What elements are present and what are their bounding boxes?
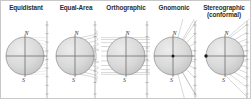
north-pole-label: N	[23, 30, 29, 36]
panel-title-line1: Orthographic	[101, 4, 151, 11]
projection-plane-equidistant	[45, 21, 48, 98]
panel-title-equal-area: Equal-Area	[51, 4, 101, 11]
projection-panel-orthographic: OrthographicNS	[101, 1, 151, 99]
north-pole-label: N	[223, 30, 229, 36]
projection-center-point	[172, 55, 175, 58]
panel-title-line2: (conformal)	[199, 11, 249, 18]
panel-title-orthographic: Orthographic	[101, 4, 151, 11]
projection-panel-equidistant: EquidistantNS	[1, 1, 51, 99]
projection-plane-equal-area	[93, 21, 96, 98]
panel-title-line1: Gnomonic	[149, 4, 199, 11]
north-pole-label: N	[171, 30, 177, 36]
projection-panel-gnomonic: GnomonicNS	[149, 1, 199, 99]
south-pole-label: S	[170, 77, 173, 83]
south-pole-label: S	[222, 77, 225, 83]
projection-diagram-stereographic: NS	[199, 19, 249, 99]
south-pole-label: S	[123, 77, 126, 83]
projection-edge-point	[204, 54, 207, 57]
panel-title-line1: Equidistant	[1, 4, 51, 11]
projection-diagram-equidistant: NS	[1, 19, 51, 99]
north-pole-label: N	[73, 30, 79, 36]
projection-comparison-figure: EquidistantNSEqual-AreaNSOrthographicNSG…	[0, 0, 251, 99]
projection-diagram-gnomonic: NS	[149, 19, 199, 99]
projection-panel-equal-area: Equal-AreaNS	[51, 1, 101, 99]
projection-plane-gnomonic	[193, 21, 196, 98]
panel-title-equidistant: Equidistant	[1, 4, 51, 11]
panel-title-line1: Equal-Area	[51, 4, 101, 11]
south-pole-label: S	[22, 77, 25, 83]
panel-title-gnomonic: Gnomonic	[149, 4, 199, 11]
panel-title-line1: Stereographic	[199, 4, 249, 11]
north-pole-label: N	[124, 30, 130, 36]
projection-panel-stereographic: Stereographic(conformal)NS	[199, 1, 249, 99]
south-pole-label: S	[72, 77, 75, 83]
projection-diagram-equal-area: NS	[51, 19, 101, 99]
panel-title-stereographic: Stereographic(conformal)	[199, 4, 249, 18]
projection-diagram-orthographic: NS	[101, 19, 151, 99]
